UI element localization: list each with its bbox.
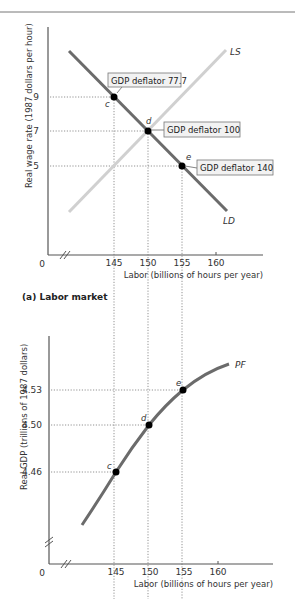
y-tick-9: 9: [33, 92, 39, 102]
x-axis-title: Labor (billions of hours per year): [124, 270, 263, 280]
origin-label: 0: [39, 259, 45, 269]
point-d-b-label: d: [141, 413, 147, 423]
point-e-b-label: e: [176, 378, 181, 388]
y-tick-5: 5: [33, 161, 39, 171]
panel-a-labor-market: LS LD c GDP deflator 77.7 d GDP deflator…: [22, 23, 273, 599]
annotation-text-e: GDP deflator 140: [200, 163, 273, 173]
point-e: [179, 163, 186, 170]
pf-label: PF: [235, 360, 246, 370]
x-tick-150-b: 150: [141, 567, 158, 577]
y-axis-title: Real wage rate (1987 dollars per hour): [24, 23, 34, 188]
point-c: [111, 94, 118, 101]
x-tick-155-b: 155: [175, 567, 192, 577]
annotation-text-d: GDP deflator 100: [167, 125, 240, 135]
x-tick-145: 145: [105, 258, 122, 268]
ls-label: LS: [230, 47, 241, 57]
origin-label-b: 0: [39, 568, 45, 578]
panel-b-production-function: PF c d e 4.53 4.50 4.46 0 145 150 155 16…: [19, 336, 273, 589]
point-c-b: [113, 469, 120, 476]
y-axis-title-b: Real GDP (trillions of 1987 dollars): [19, 344, 29, 490]
x-tick-160-b: 160: [209, 567, 226, 577]
x-tick-160: 160: [207, 258, 224, 268]
panel-title: (a) Labor market: [22, 292, 108, 302]
x-tick-155: 155: [173, 258, 190, 268]
point-c-b-label: c: [107, 461, 112, 471]
point-c-label: c: [105, 99, 110, 109]
point-d: [145, 128, 152, 135]
ld-label: LD: [223, 216, 235, 226]
production-function-curve: [82, 364, 229, 525]
x-tick-150: 150: [139, 258, 156, 268]
labor-market-diagram: LS LD c GDP deflator 77.7 d GDP deflator…: [0, 0, 295, 599]
point-d-label: d: [146, 116, 152, 126]
x-tick-145-b: 145: [107, 567, 124, 577]
x-axis-title-b: Labor (billions of hours per year): [134, 579, 273, 589]
point-d-b: [146, 422, 153, 429]
annotation-text-c: GDP deflator 77.7: [111, 76, 187, 86]
y-tick-7: 7: [33, 126, 39, 136]
point-e-label: e: [186, 152, 191, 162]
guide-lines-b: [51, 390, 183, 472]
guide-lines: [50, 97, 182, 599]
